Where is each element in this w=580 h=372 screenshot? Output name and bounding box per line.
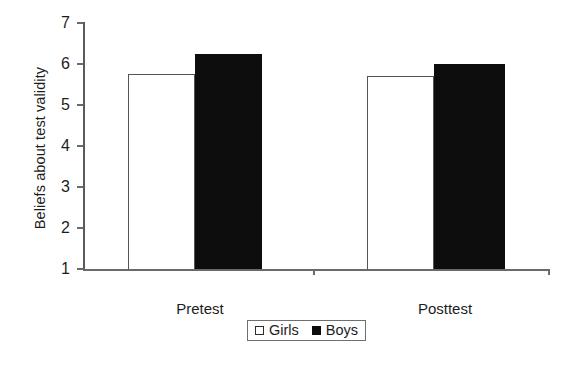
bar-pretest-boys [195, 54, 262, 269]
y-axis-tick-3: 3 [77, 186, 83, 188]
y-axis-tick-label-5: 5 [61, 96, 70, 112]
x-axis-line [83, 269, 550, 271]
y-axis-line [83, 22, 85, 271]
legend-item-girls: Girls [255, 323, 299, 338]
chart-legend: Girls Boys [247, 320, 366, 341]
y-axis-tick-5: 5 [77, 104, 83, 106]
bar-chart-figure: Beliefs about test validity 7 6 5 4 3 2 … [0, 0, 580, 372]
plot-area: 7 6 5 4 3 2 1 Pretest Posttest [83, 22, 550, 270]
y-axis-tick-label-4: 4 [61, 137, 70, 153]
y-axis-tick-6: 6 [77, 63, 83, 65]
x-axis-category-label-pretest: Pretest [176, 300, 224, 317]
legend-label-boys: Boys [326, 323, 358, 338]
x-axis-tick-right [548, 269, 550, 275]
filled-square-swatch-icon [312, 326, 321, 335]
open-square-swatch-icon [255, 326, 264, 335]
y-axis-tick-label-1: 1 [61, 260, 70, 276]
y-axis-tick-label-6: 6 [61, 55, 70, 71]
y-axis-tick-2: 2 [77, 227, 83, 229]
y-axis-tick-7: 7 [77, 22, 83, 24]
y-axis-tick-1: 1 [77, 268, 83, 270]
legend-label-girls: Girls [269, 323, 299, 338]
y-axis-tick-label-2: 2 [61, 219, 70, 235]
y-axis-tick-label-3: 3 [61, 178, 70, 194]
y-axis-tick-label-7: 7 [61, 14, 70, 30]
y-axis-tick-4: 4 [77, 145, 83, 147]
bar-pretest-girls [128, 74, 195, 269]
y-axis-title: Beliefs about test validity [32, 18, 48, 278]
bar-posttest-girls [367, 76, 434, 269]
x-axis-category-label-posttest: Posttest [418, 300, 472, 317]
x-axis-tick-middle [313, 269, 315, 275]
legend-item-boys: Boys [312, 323, 358, 338]
bar-posttest-boys [434, 64, 505, 269]
